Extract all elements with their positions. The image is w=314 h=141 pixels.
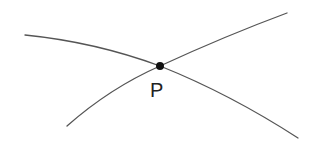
- diagram-canvas: P: [0, 0, 314, 141]
- curve-b: [67, 13, 287, 126]
- curves-svg: [0, 0, 314, 141]
- point-label: P: [150, 80, 163, 100]
- intersection-point: [156, 62, 164, 70]
